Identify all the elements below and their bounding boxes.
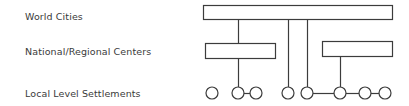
settlement-1 xyxy=(206,87,218,99)
national-box-left xyxy=(206,44,276,59)
settlement-nodes-group xyxy=(206,87,391,99)
world-cities-bar xyxy=(204,6,393,20)
settlement-6 xyxy=(334,87,346,99)
settlement-2 xyxy=(232,87,244,99)
national-centers-boxes-group xyxy=(206,42,393,59)
national-box-right xyxy=(323,42,393,57)
hierarchy-graphic xyxy=(0,0,409,106)
settlement-4 xyxy=(282,87,294,99)
settlement-3 xyxy=(250,87,262,99)
diagram-canvas: World Cities National/Regional Centers L… xyxy=(0,0,409,106)
settlement-5 xyxy=(301,87,313,99)
settlement-7 xyxy=(359,87,371,99)
settlement-8 xyxy=(379,87,391,99)
